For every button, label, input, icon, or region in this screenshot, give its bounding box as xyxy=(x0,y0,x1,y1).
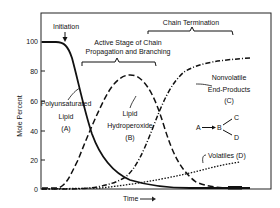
label-active-stage-1: Active Stage of Chain xyxy=(94,39,161,47)
label-lipid-b-1: Lipid xyxy=(123,110,138,118)
scheme-arrow-bd xyxy=(223,130,232,135)
y-axis-label: Mole Percent xyxy=(16,95,23,136)
y-tick-100: 100 xyxy=(26,38,38,45)
y-tick-80: 80 xyxy=(30,68,38,75)
scheme-d: D xyxy=(234,134,239,141)
volatiles-pointer xyxy=(203,155,206,163)
oxidation-diagram: 100 80 60 40 20 0 Mole Percent Time Init… xyxy=(0,0,280,208)
label-lipid-a-1: Polyunsaturated xyxy=(41,100,92,108)
label-chain-termination: Chain Termination xyxy=(163,19,219,26)
scheme-b: B xyxy=(217,124,222,131)
label-lipid-b-2: Hydroperoxide xyxy=(107,122,153,130)
curve-end-marker xyxy=(228,186,242,190)
initiation-arrow-icon xyxy=(63,32,68,42)
active-stage-brace xyxy=(82,58,156,66)
lipid-a-pointer xyxy=(68,88,80,100)
lipid-b-pointer xyxy=(130,96,136,108)
y-tick-40: 40 xyxy=(30,128,38,135)
label-end-products-1: Nonvolatile xyxy=(212,74,247,81)
label-active-stage-2: Propagation and Branching xyxy=(86,48,171,56)
scheme-a: A xyxy=(196,124,201,131)
label-lipid-a-3: (A) xyxy=(61,125,70,133)
scheme-arrowhead-ab xyxy=(212,126,216,130)
y-axis-ticks xyxy=(41,42,45,189)
label-end-products-2: End-Products xyxy=(208,86,251,93)
end-products-pointer xyxy=(196,84,212,86)
curve-volatiles xyxy=(42,162,240,189)
y-tick-0: 0 xyxy=(34,186,38,193)
chain-termination-brace xyxy=(148,27,233,35)
time-arrow-icon xyxy=(140,197,156,202)
x-axis-label: Time xyxy=(123,195,138,202)
label-volatiles: Volatiles (D) xyxy=(208,152,246,160)
scheme-c: C xyxy=(234,114,239,121)
y-tick-20: 20 xyxy=(30,157,38,164)
scheme-arrow-bc xyxy=(223,119,232,125)
label-lipid-b-3: (B) xyxy=(125,134,134,142)
label-lipid-a-2: Lipid xyxy=(59,113,74,121)
label-end-products-3: (C) xyxy=(224,97,234,105)
label-initiation: Initiation xyxy=(53,23,79,30)
y-tick-60: 60 xyxy=(30,98,38,105)
